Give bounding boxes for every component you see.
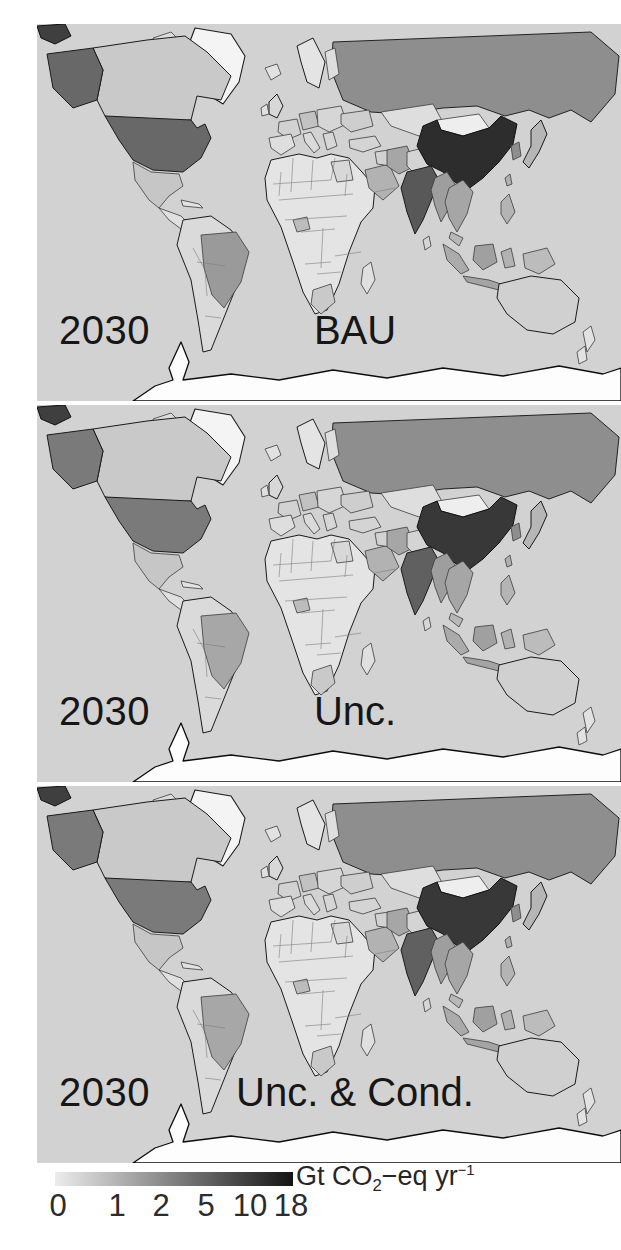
unit-prefix: Gt CO — [296, 1161, 373, 1191]
colorbar-gradient — [55, 1172, 293, 1186]
country-germany — [299, 111, 319, 130]
colorbar-tick-2: 2 — [152, 1188, 169, 1224]
country-germany — [299, 873, 319, 892]
scenario-label-unc-cond: Unc. & Cond. — [236, 1070, 474, 1115]
colorbar-tick-5: 5 — [197, 1188, 214, 1224]
scenario-label-bau: BAU — [314, 308, 396, 353]
colorbar-unit-label: Gt CO2−eq yr−1 — [296, 1161, 475, 1196]
unit-subscript: 2 — [373, 1176, 382, 1195]
unit-mid: −eq yr — [382, 1161, 458, 1191]
colorbar-tick-10: 10 — [233, 1188, 267, 1224]
country-germany — [299, 492, 319, 511]
year-label: 2030 — [59, 308, 150, 353]
colorbar-tick-18: 18 — [274, 1188, 308, 1224]
scenario-label-unc: Unc. — [314, 689, 396, 734]
map-panel-bau: 2030 BAU — [37, 24, 621, 401]
unit-exponent: −1 — [458, 1162, 475, 1178]
year-label: 2030 — [59, 689, 150, 734]
year-label: 2030 — [59, 1070, 150, 1115]
colorbar-tick-1: 1 — [108, 1188, 125, 1224]
colorbar-tick-0: 0 — [49, 1188, 66, 1224]
map-panel-unc: 2030 Unc. — [37, 405, 621, 782]
map-panel-unc-cond: 2030 Unc. & Cond. — [37, 786, 621, 1163]
